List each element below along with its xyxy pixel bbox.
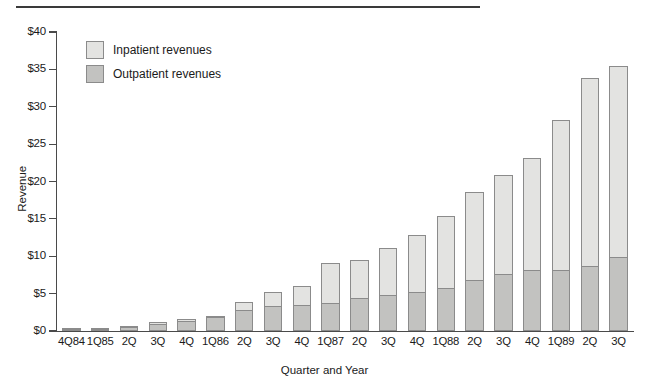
- legend-label-inpatient: Inpatient revenues: [113, 44, 212, 57]
- bar-segment-inpatient[interactable]: [264, 292, 283, 307]
- bar-segment-outpatient[interactable]: [321, 303, 340, 331]
- bar-segment-outpatient[interactable]: [264, 306, 283, 331]
- bar-stack[interactable]: [408, 32, 427, 331]
- bar-segment-inpatient[interactable]: [293, 286, 312, 306]
- legend-item-inpatient: Inpatient revenues: [86, 39, 266, 61]
- bar-segment-inpatient[interactable]: [350, 260, 369, 299]
- x-axis-tick-label: 3Q: [597, 335, 641, 348]
- bar-segment-outpatient[interactable]: [581, 266, 600, 331]
- y-axis-tick: [49, 31, 56, 32]
- y-axis-tick: [49, 330, 56, 331]
- bar-stack[interactable]: [350, 32, 369, 331]
- bar-segment-inpatient[interactable]: [62, 328, 81, 330]
- bar-stack[interactable]: [264, 32, 283, 331]
- bar-stack[interactable]: [523, 32, 542, 331]
- bar-segment-inpatient[interactable]: [523, 158, 542, 272]
- bar-stack[interactable]: [609, 32, 628, 331]
- header-rule: [16, 6, 480, 8]
- bar-segment-inpatient[interactable]: [609, 66, 628, 258]
- inpatient-swatch-icon: [86, 41, 104, 59]
- bar-segment-outpatient[interactable]: [465, 280, 484, 331]
- bar-stack[interactable]: [437, 32, 456, 331]
- bar-stack[interactable]: [321, 32, 340, 331]
- bar-stack[interactable]: [581, 32, 600, 331]
- bar-segment-outpatient[interactable]: [609, 257, 628, 331]
- legend-label-outpatient: Outpatient revenues: [113, 68, 221, 81]
- y-axis-tick: [49, 293, 56, 294]
- chart-legend: Inpatient revenues Outpatient revenues: [86, 39, 266, 87]
- bar-segment-inpatient[interactable]: [494, 175, 513, 275]
- bar-segment-outpatient[interactable]: [293, 305, 312, 331]
- bar-stack[interactable]: [62, 32, 81, 331]
- bar-segment-inpatient[interactable]: [235, 302, 254, 311]
- y-axis-tick: [49, 181, 56, 182]
- outpatient-swatch-icon: [86, 65, 104, 83]
- bar-stack[interactable]: [494, 32, 513, 331]
- bar-segment-outpatient[interactable]: [149, 324, 168, 331]
- bar-segment-inpatient[interactable]: [581, 78, 600, 267]
- legend-item-outpatient: Outpatient revenues: [86, 63, 266, 85]
- bar-segment-inpatient[interactable]: [206, 316, 225, 318]
- bar-segment-outpatient[interactable]: [350, 298, 369, 331]
- bar-segment-inpatient[interactable]: [120, 326, 139, 328]
- bar-segment-inpatient[interactable]: [149, 322, 168, 324]
- x-axis-title: Quarter and Year: [0, 364, 649, 376]
- bar-stack[interactable]: [293, 32, 312, 331]
- bar-stack[interactable]: [552, 32, 571, 331]
- bar-stack[interactable]: [379, 32, 398, 331]
- bar-stack[interactable]: [465, 32, 484, 331]
- y-axis-tick: [49, 218, 56, 219]
- y-axis-title: Revenue: [17, 149, 29, 229]
- bar-segment-inpatient[interactable]: [177, 319, 196, 321]
- y-axis-tick-label: $5: [2, 288, 46, 300]
- bar-segment-inpatient[interactable]: [552, 120, 571, 270]
- bar-segment-inpatient[interactable]: [437, 216, 456, 289]
- y-axis-tick-label: $10: [2, 250, 46, 262]
- y-axis-tick-label: $30: [2, 101, 46, 113]
- bar-segment-inpatient[interactable]: [91, 328, 110, 330]
- y-axis-tick-label: $40: [2, 26, 46, 38]
- bar-segment-outpatient[interactable]: [552, 270, 571, 331]
- revenue-stacked-bar-chart: $0$5$10$15$20$25$30$35$40 Revenue Quarte…: [0, 0, 649, 390]
- bar-segment-inpatient[interactable]: [465, 192, 484, 281]
- y-axis-tick: [49, 69, 56, 70]
- bar-segment-outpatient[interactable]: [177, 321, 196, 331]
- bar-segment-outpatient[interactable]: [379, 295, 398, 331]
- bar-segment-outpatient[interactable]: [523, 270, 542, 331]
- y-axis-tick: [49, 256, 56, 257]
- y-axis-tick-label: $35: [2, 63, 46, 75]
- y-axis-tick: [49, 144, 56, 145]
- bar-segment-inpatient[interactable]: [321, 263, 340, 304]
- bar-segment-outpatient[interactable]: [494, 274, 513, 331]
- bar-segment-outpatient[interactable]: [408, 292, 427, 331]
- y-axis-tick: [49, 106, 56, 107]
- bar-segment-inpatient[interactable]: [379, 248, 398, 297]
- bar-segment-outpatient[interactable]: [437, 288, 456, 331]
- bar-segment-outpatient[interactable]: [206, 317, 225, 331]
- bar-segment-outpatient[interactable]: [235, 310, 254, 331]
- x-axis-line: [56, 331, 634, 332]
- y-axis-tick-label: $0: [2, 325, 46, 337]
- bar-segment-inpatient[interactable]: [408, 235, 427, 293]
